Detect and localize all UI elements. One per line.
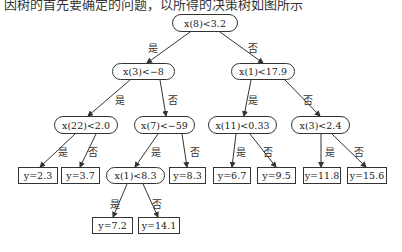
node-x3-lt-2-4: x(3)<2.4 xyxy=(291,116,350,134)
edge-label-no: 否 xyxy=(152,196,162,211)
edge-label-no: 否 xyxy=(303,92,313,107)
edge-label-yes: 是 xyxy=(325,144,335,159)
edge-label-no: 否 xyxy=(263,144,273,159)
node-x1-lt-17-9: x(1)<17.9 xyxy=(231,63,295,80)
edge-label-no: 否 xyxy=(354,144,364,159)
leaf-y-9-5: y=9.5 xyxy=(257,167,296,184)
node-x11-lt-0-33: x(11)<0.33 xyxy=(208,116,277,134)
leaf-y-11-8: y=11.8 xyxy=(303,167,341,184)
node-x7-lt-neg59: x(7)<−59 xyxy=(134,116,195,134)
edge-label-no: 否 xyxy=(248,40,258,55)
leaf-y-3-7: y=3.7 xyxy=(61,167,100,184)
node-x22-lt-2-0: x(22)<2.0 xyxy=(54,116,118,134)
edge-label-yes: 是 xyxy=(110,196,120,211)
edge-label-yes: 是 xyxy=(248,92,258,107)
edge-label-no: 否 xyxy=(168,92,178,107)
leaf-y-7-2: y=7.2 xyxy=(92,217,133,234)
edge-label-yes: 是 xyxy=(236,144,246,159)
node-root: x(8)<3.2 xyxy=(172,14,238,32)
edge-label-yes: 是 xyxy=(151,144,161,159)
edge-label-no: 否 xyxy=(88,144,98,159)
node-x3-lt-neg8: x(3)<−8 xyxy=(112,63,175,80)
leaf-y-2-3: y=2.3 xyxy=(18,167,58,184)
edge-label-yes: 是 xyxy=(115,92,125,107)
leaf-y-8-3: y=8.3 xyxy=(169,167,206,184)
edge-label-yes: 是 xyxy=(148,40,158,55)
node-x1-lt-8-3: x(1)<8.3 xyxy=(106,167,165,184)
edge-label-yes: 是 xyxy=(58,144,68,159)
leaf-y-15-6: y=15.6 xyxy=(347,167,387,184)
edge-label-no: 否 xyxy=(190,144,200,159)
leaf-y-14-1: y=14.1 xyxy=(138,217,180,234)
leaf-y-6-7: y=6.7 xyxy=(213,167,251,184)
